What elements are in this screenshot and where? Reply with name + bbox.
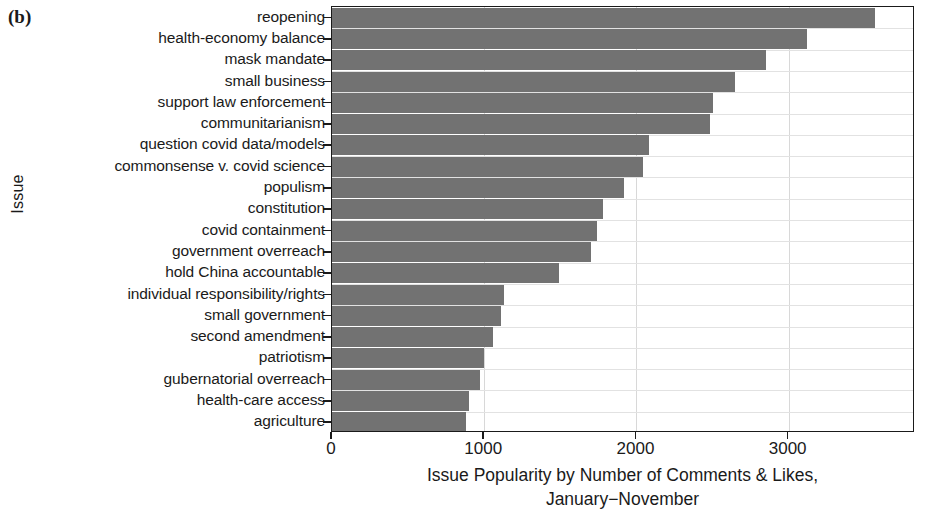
x-axis-tick-mark: [482, 432, 484, 439]
y-axis-tick-label: mask mandate: [5, 51, 325, 66]
y-axis-tick-label: health-economy balance: [5, 30, 325, 45]
y-axis-tick-label: question covid data/models: [5, 136, 325, 151]
y-axis-tick-mark: [323, 357, 331, 359]
y-axis-tick-mark: [323, 272, 331, 274]
y-axis-tick-label: reopening: [5, 9, 325, 24]
y-axis-tick-label: health-care access: [5, 392, 325, 407]
x-axis-title-line-2: January−November: [331, 487, 914, 511]
y-axis-tick-mark: [323, 166, 331, 168]
y-axis-tick-label: hold China accountable: [5, 264, 325, 279]
bar: [332, 285, 504, 305]
bar-row: [332, 391, 469, 411]
y-axis-tick-mark: [323, 379, 331, 381]
bar: [332, 306, 501, 326]
bar-row: [332, 178, 624, 198]
bar: [332, 242, 591, 262]
y-axis-tick-label: patriotism: [5, 349, 325, 364]
y-axis-tick-label: second amendment: [5, 328, 325, 343]
y-axis-tick-mark: [323, 400, 331, 402]
y-axis-tick-mark: [323, 144, 331, 146]
bar: [332, 72, 735, 92]
y-axis-tick-label: constitution: [5, 200, 325, 215]
bar: [332, 327, 493, 347]
bar-row: [332, 29, 807, 49]
x-axis-tick-label: 0: [326, 439, 335, 459]
y-axis-tick-labels: reopeninghealth-economy balancemask mand…: [0, 6, 325, 432]
bar: [332, 157, 643, 177]
y-axis-tick-mark: [323, 59, 331, 61]
y-axis-tick-mark: [323, 38, 331, 40]
y-axis-tick-mark: [323, 208, 331, 210]
y-axis-tick-mark: [323, 315, 331, 317]
bar-row: [332, 263, 559, 283]
y-axis-tick-mark: [323, 336, 331, 338]
y-axis-tick-mark: [323, 123, 331, 125]
bar-row: [332, 285, 504, 305]
bar-series: [332, 7, 913, 431]
bar-row: [332, 370, 480, 390]
y-axis-tick-label: commonsense v. covid science: [5, 158, 325, 173]
y-axis-tick-label: populism: [5, 179, 325, 194]
bar: [332, 199, 603, 219]
y-axis-tick-label: small business: [5, 73, 325, 88]
y-axis-tick-label: covid containment: [5, 222, 325, 237]
bar-row: [332, 242, 591, 262]
y-axis-tick-label: gubernatorial overreach: [5, 371, 325, 386]
y-axis-tick-mark: [323, 230, 331, 232]
bar: [332, 50, 766, 70]
bar-row: [332, 72, 735, 92]
bar: [332, 29, 807, 49]
bar-row: [332, 8, 875, 28]
bar: [332, 370, 480, 390]
bar-row: [332, 412, 466, 432]
bar: [332, 221, 597, 241]
bar: [332, 348, 484, 368]
y-axis-tick-mark: [323, 187, 331, 189]
bar-row: [332, 114, 710, 134]
x-axis-tick-label: 2000: [617, 439, 655, 459]
y-axis-tick-mark: [323, 81, 331, 83]
plot-area: [331, 6, 914, 432]
bar: [332, 114, 710, 134]
x-axis-tick-label: 3000: [769, 439, 807, 459]
y-axis-tick-label: government overreach: [5, 243, 325, 258]
bar: [332, 178, 624, 198]
bar-chart: (b) Issue reopeninghealth-economy balanc…: [0, 0, 926, 511]
bar: [332, 93, 713, 113]
x-axis-title: Issue Popularity by Number of Comments &…: [331, 463, 914, 511]
bar-row: [332, 135, 649, 155]
bar: [332, 391, 469, 411]
x-axis-tick-mark: [635, 432, 637, 439]
y-axis-tick-mark: [323, 294, 331, 296]
y-axis-tick-label: individual responsibility/rights: [5, 286, 325, 301]
bar-row: [332, 93, 713, 113]
x-axis-tick-label: 1000: [464, 439, 502, 459]
bar-row: [332, 199, 603, 219]
bar-row: [332, 348, 484, 368]
y-axis-tick-label: support law enforcement: [5, 94, 325, 109]
bar-row: [332, 306, 501, 326]
x-axis-title-line-1: Issue Popularity by Number of Comments &…: [331, 463, 914, 487]
y-axis-tick-label: small government: [5, 307, 325, 322]
bar-row: [332, 157, 643, 177]
y-axis-tick-mark: [323, 251, 331, 253]
y-axis-tick-mark: [323, 102, 331, 104]
y-axis-tick-label: communitarianism: [5, 115, 325, 130]
bar: [332, 263, 559, 283]
bar-row: [332, 221, 597, 241]
bar-row: [332, 327, 493, 347]
x-axis-tick-mark: [330, 432, 332, 439]
bar-row: [332, 50, 766, 70]
bar: [332, 412, 466, 432]
x-axis-tick-mark: [787, 432, 789, 439]
y-axis-tick-mark: [323, 421, 331, 423]
bar: [332, 8, 875, 28]
y-axis-tick-label: agriculture: [5, 413, 325, 428]
y-axis-tick-mark: [323, 17, 331, 19]
bar: [332, 135, 649, 155]
